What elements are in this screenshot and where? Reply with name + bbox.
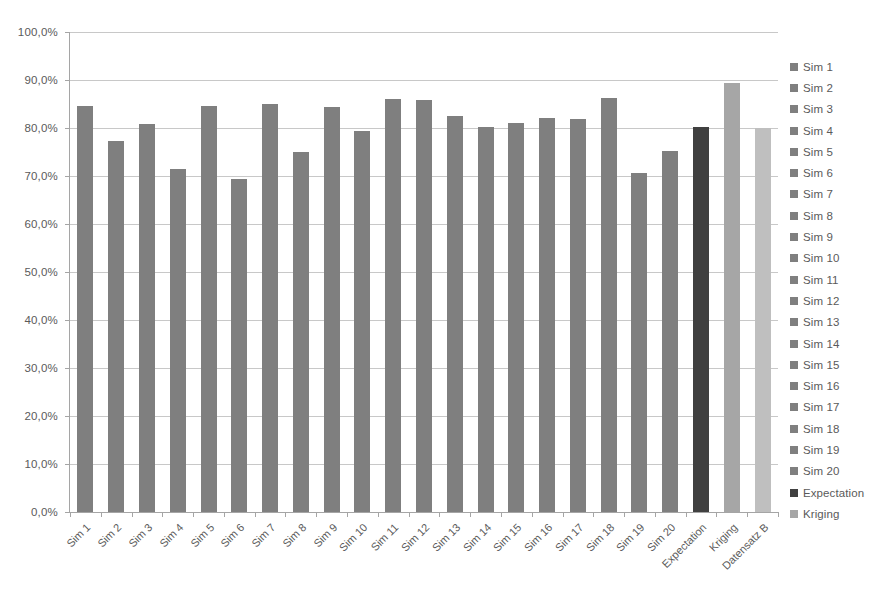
legend-swatch-icon bbox=[790, 148, 798, 156]
legend-swatch-icon bbox=[790, 276, 798, 284]
bar bbox=[478, 127, 494, 512]
legend-label: Sim 10 bbox=[803, 252, 839, 264]
bar bbox=[508, 123, 524, 512]
bar bbox=[354, 131, 370, 512]
bar bbox=[447, 116, 463, 512]
y-tick-label: 50,0% bbox=[24, 266, 58, 278]
legend-item[interactable]: Sim 4 bbox=[790, 120, 890, 141]
bar bbox=[170, 169, 186, 512]
legend-swatch-icon bbox=[790, 254, 798, 262]
bar bbox=[77, 106, 93, 512]
legend-label: Sim 11 bbox=[803, 274, 839, 286]
bar bbox=[755, 128, 771, 512]
legend-swatch-icon bbox=[790, 190, 798, 198]
bar bbox=[416, 100, 432, 512]
legend-swatch-icon bbox=[790, 297, 798, 305]
legend-label: Sim 5 bbox=[803, 146, 833, 158]
bar bbox=[385, 99, 401, 512]
y-tick-label: 0,0% bbox=[31, 506, 58, 518]
bar bbox=[139, 124, 155, 512]
legend-swatch-icon bbox=[790, 212, 798, 220]
legend-label: Expectation bbox=[803, 487, 864, 499]
legend-swatch-icon bbox=[790, 403, 798, 411]
legend-label: Sim 18 bbox=[803, 423, 839, 435]
legend-item[interactable]: Sim 10 bbox=[790, 248, 890, 269]
legend-item[interactable]: Sim 1 bbox=[790, 56, 890, 77]
legend-item[interactable]: Sim 8 bbox=[790, 205, 890, 226]
legend-label: Sim 8 bbox=[803, 210, 833, 222]
y-axis: 0,0%10,0%20,0%30,0%40,0%50,0%60,0%70,0%8… bbox=[0, 0, 66, 606]
bars bbox=[70, 32, 778, 512]
legend-swatch-icon bbox=[790, 233, 798, 241]
x-axis: Sim 1Sim 2Sim 3Sim 4Sim 5Sim 6Sim 7Sim 8… bbox=[69, 513, 777, 606]
legend-label: Sim 13 bbox=[803, 316, 839, 328]
bar bbox=[293, 152, 309, 512]
legend-label: Sim 4 bbox=[803, 125, 833, 137]
legend-label: Sim 14 bbox=[803, 338, 839, 350]
legend-item[interactable]: Kriging bbox=[790, 503, 890, 524]
legend-swatch-icon bbox=[790, 425, 798, 433]
bar-chart: 0,0%10,0%20,0%30,0%40,0%50,0%60,0%70,0%8… bbox=[0, 0, 890, 606]
legend-label: Sim 6 bbox=[803, 167, 833, 179]
legend-label: Sim 9 bbox=[803, 231, 833, 243]
legend-swatch-icon bbox=[790, 127, 798, 135]
legend-swatch-icon bbox=[790, 361, 798, 369]
plot-area bbox=[69, 32, 778, 513]
legend-item[interactable]: Sim 13 bbox=[790, 312, 890, 333]
y-tick-label: 100,0% bbox=[18, 26, 58, 38]
legend-label: Kriging bbox=[803, 508, 840, 520]
legend-item[interactable]: Sim 2 bbox=[790, 77, 890, 98]
legend-swatch-icon bbox=[790, 318, 798, 326]
legend-swatch-icon bbox=[790, 105, 798, 113]
y-tick-label: 40,0% bbox=[24, 314, 58, 326]
bar bbox=[201, 106, 217, 512]
legend-item[interactable]: Sim 12 bbox=[790, 290, 890, 311]
legend-label: Sim 19 bbox=[803, 444, 839, 456]
legend-swatch-icon bbox=[790, 446, 798, 454]
legend-swatch-icon bbox=[790, 467, 798, 475]
y-tick-label: 80,0% bbox=[24, 122, 58, 134]
y-tick-label: 30,0% bbox=[24, 362, 58, 374]
y-tick-label: 20,0% bbox=[24, 410, 58, 422]
legend-label: Sim 16 bbox=[803, 380, 839, 392]
legend-swatch-icon bbox=[790, 63, 798, 71]
legend-item[interactable]: Sim 5 bbox=[790, 141, 890, 162]
chart-legend: Sim 1Sim 2Sim 3Sim 4Sim 5Sim 6Sim 7Sim 8… bbox=[790, 56, 890, 525]
x-tick-mark bbox=[778, 512, 779, 517]
legend-label: Sim 15 bbox=[803, 359, 839, 371]
legend-item[interactable]: Sim 17 bbox=[790, 397, 890, 418]
bar bbox=[662, 151, 678, 512]
legend-label: Sim 2 bbox=[803, 82, 833, 94]
bar bbox=[231, 179, 247, 512]
legend-label: Sim 1 bbox=[803, 61, 833, 73]
legend-swatch-icon bbox=[790, 489, 798, 497]
legend-label: Sim 20 bbox=[803, 465, 839, 477]
legend-item[interactable]: Expectation bbox=[790, 482, 890, 503]
y-tick-label: 60,0% bbox=[24, 218, 58, 230]
legend-item[interactable]: Sim 19 bbox=[790, 439, 890, 460]
legend-item[interactable]: Sim 6 bbox=[790, 162, 890, 183]
bar bbox=[108, 141, 124, 512]
legend-item[interactable]: Sim 16 bbox=[790, 375, 890, 396]
bar bbox=[539, 118, 555, 512]
legend-label: Sim 3 bbox=[803, 103, 833, 115]
bar bbox=[324, 107, 340, 512]
legend-item[interactable]: Sim 9 bbox=[790, 226, 890, 247]
legend-label: Sim 12 bbox=[803, 295, 839, 307]
legend-swatch-icon bbox=[790, 84, 798, 92]
legend-label: Sim 17 bbox=[803, 401, 839, 413]
legend-item[interactable]: Sim 18 bbox=[790, 418, 890, 439]
legend-item[interactable]: Sim 11 bbox=[790, 269, 890, 290]
y-tick-label: 70,0% bbox=[24, 170, 58, 182]
legend-item[interactable]: Sim 14 bbox=[790, 333, 890, 354]
legend-swatch-icon bbox=[790, 510, 798, 518]
legend-item[interactable]: Sim 15 bbox=[790, 354, 890, 375]
y-tick-label: 90,0% bbox=[24, 74, 58, 86]
legend-item[interactable]: Sim 3 bbox=[790, 99, 890, 120]
legend-item[interactable]: Sim 20 bbox=[790, 461, 890, 482]
bar bbox=[262, 104, 278, 512]
legend-item[interactable]: Sim 7 bbox=[790, 184, 890, 205]
y-tick-label: 10,0% bbox=[24, 458, 58, 470]
legend-swatch-icon bbox=[790, 382, 798, 390]
bar bbox=[570, 119, 586, 512]
